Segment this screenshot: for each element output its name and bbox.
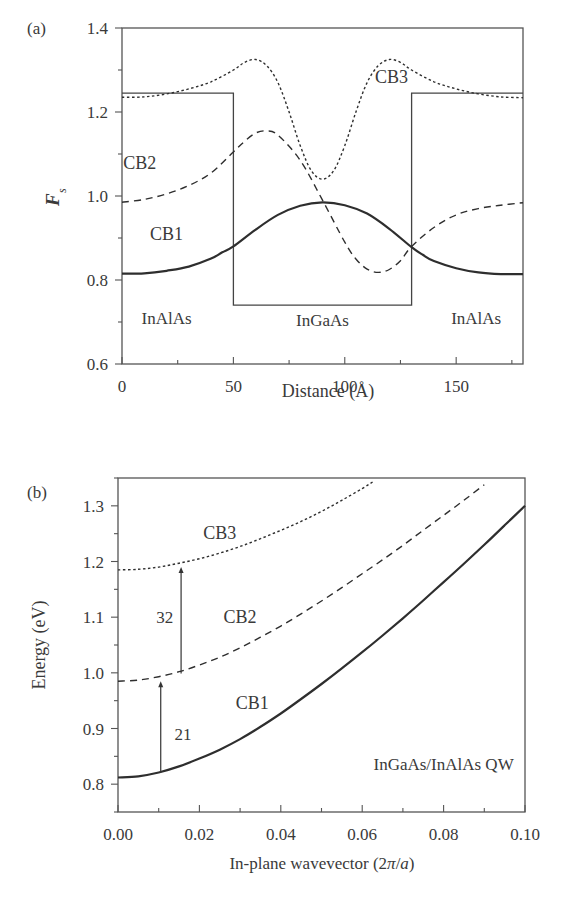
panel-b-xlabel: In-plane wavevector (2π/a) [229, 854, 414, 873]
region-label: InAlAs [142, 309, 192, 328]
x-tick-label: 0.02 [185, 825, 215, 844]
region-label: InGaAs [296, 311, 349, 330]
x-tick-label: 0.08 [429, 825, 459, 844]
arrow-head-icon [179, 567, 184, 573]
series-label-cb3: CB3 [203, 523, 236, 543]
figure: (a) 0501001500.60.81.01.21.4InAlAsInGaAs… [0, 0, 565, 902]
x-tick-label: 0 [118, 377, 127, 396]
panel-a-ylabel: F s [42, 188, 69, 207]
x-tick-label: 50 [225, 377, 242, 396]
y-tick-label: 0.8 [83, 775, 104, 794]
panel-a-ylabel-sub: s [55, 188, 69, 193]
y-tick-label: 0.6 [87, 355, 108, 374]
series-cb3-line [118, 481, 374, 570]
transition-label-32: 32 [156, 608, 173, 627]
x-tick-label: 0.06 [347, 825, 377, 844]
x-tick-label: 0.10 [510, 825, 540, 844]
series-label-cb2: CB2 [224, 607, 257, 627]
series-label-cb3: CB3 [375, 67, 408, 87]
arrow-head-icon [158, 681, 163, 687]
region-label: InAlAs [451, 309, 501, 328]
x-tick-label: 0.00 [103, 825, 133, 844]
series-cb2-line [118, 485, 484, 682]
panel-b-ylabel: Energy (eV) [29, 600, 50, 689]
y-tick-label: 1.1 [83, 608, 104, 627]
annotation-text: InGaAs/InAlAs QW [373, 755, 514, 774]
series-label-cb2: CB2 [123, 153, 156, 173]
panel-a-label: (a) [27, 19, 46, 38]
panel-a-xlabel: Distance (Å) [282, 381, 374, 402]
y-tick-label: 1.0 [87, 187, 108, 206]
y-tick-label: 1.3 [83, 497, 104, 516]
y-tick-label: 1.0 [83, 664, 104, 683]
y-tick-label: 1.2 [83, 553, 104, 572]
transition-label-21: 21 [175, 725, 192, 744]
panel-a-chart: (a) 0501001500.60.81.01.21.4InAlAsInGaAs… [27, 19, 523, 402]
series-cb3-line [122, 59, 523, 179]
y-tick-label: 1.2 [87, 103, 108, 122]
panel-b-plot-area: 0.000.020.040.060.080.100.80.91.01.11.21… [83, 478, 540, 844]
panel-a-plot-area: 0501001500.60.81.01.21.4InAlAsInGaAsInAl… [87, 19, 523, 396]
series-label-cb1: CB1 [150, 224, 183, 244]
panel-b-label: (b) [27, 483, 47, 502]
y-tick-label: 1.4 [87, 19, 109, 38]
x-tick-label: 0.04 [266, 825, 296, 844]
panel-b-chart: (b) 0.000.020.040.060.080.100.80.91.01.1… [27, 478, 540, 873]
series-label-cb1: CB1 [236, 693, 269, 713]
y-tick-label: 0.9 [83, 720, 104, 739]
y-tick-label: 0.8 [87, 271, 108, 290]
panel-a-ylabel-main: F [42, 193, 63, 207]
x-tick-label: 150 [443, 377, 469, 396]
